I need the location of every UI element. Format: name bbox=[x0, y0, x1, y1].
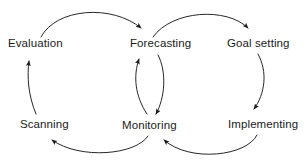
node-forecasting: Forecasting bbox=[130, 37, 191, 50]
arrow-monitoring-to-scanning bbox=[52, 136, 148, 153]
arrow-monitoring-to-forecasting bbox=[136, 59, 147, 114]
arrow-forecasting-to-monitoring bbox=[156, 55, 164, 114]
arrow-evaluation-to-forecasting bbox=[41, 12, 141, 37]
arrow-forecasting-to-goal-setting bbox=[153, 14, 248, 37]
node-scanning: Scanning bbox=[20, 118, 69, 131]
arrow-scanning-to-evaluation bbox=[28, 61, 36, 114]
cycle-diagram: Evaluation Forecasting Goal setting Scan… bbox=[0, 0, 308, 167]
node-implementing: Implementing bbox=[228, 118, 298, 131]
flow-arrows-layer bbox=[0, 0, 308, 167]
node-monitoring: Monitoring bbox=[122, 119, 177, 132]
arrow-implementing-to-monitoring bbox=[164, 135, 257, 154]
node-goal-setting: Goal setting bbox=[227, 37, 290, 50]
arrow-goal-setting-to-implementing bbox=[254, 54, 264, 109]
node-evaluation: Evaluation bbox=[8, 37, 63, 50]
